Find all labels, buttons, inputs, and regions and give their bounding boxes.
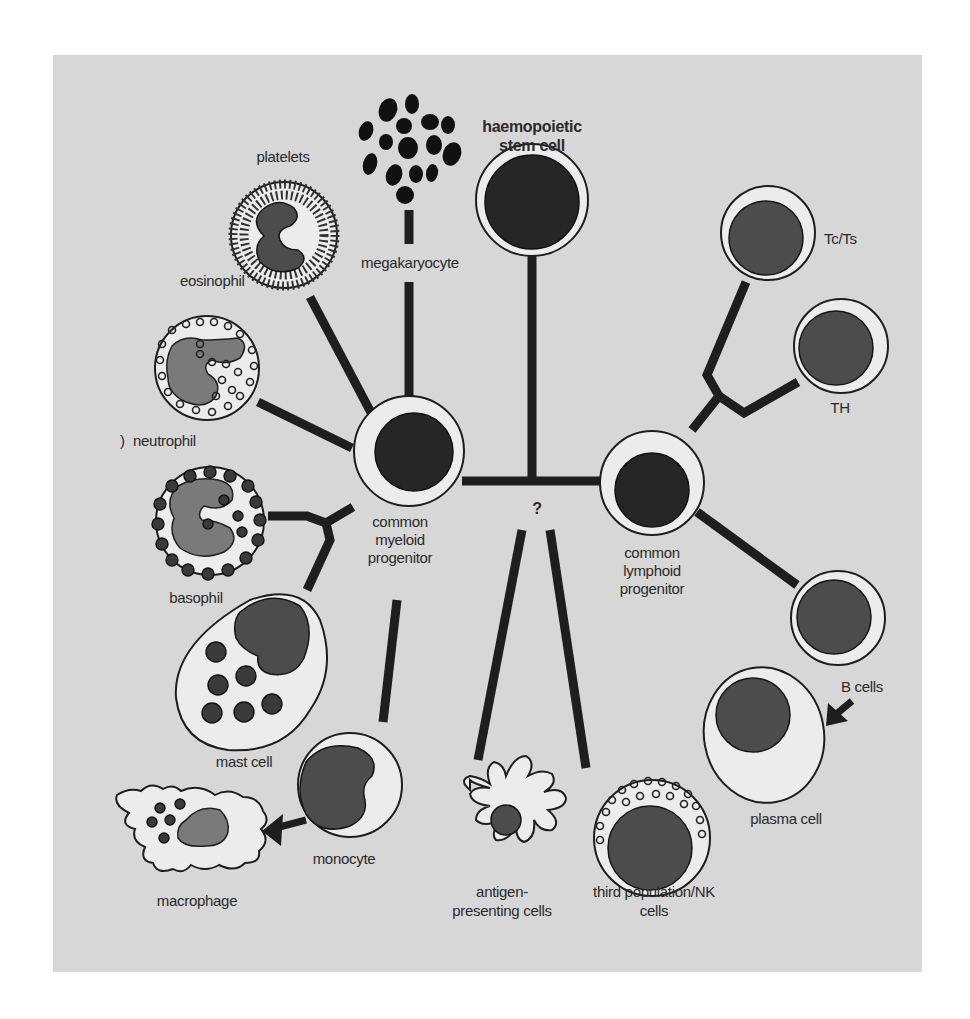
neutrophil-icon — [155, 316, 259, 420]
nk-cell-icon — [594, 778, 710, 897]
tc-ts-cell-icon — [721, 186, 815, 280]
eosinophil-icon — [231, 182, 337, 288]
stray-mark: ) — [120, 432, 125, 449]
macrophage-label: macrophage — [157, 892, 237, 909]
monocyte-label: monocyte — [313, 850, 376, 867]
apc-label: antigen- — [476, 883, 528, 900]
plasma-cell-label: plasma cell — [750, 810, 822, 827]
haematopoiesis-diagram: haemopoietic stem cell common myeloid pr… — [0, 0, 970, 1019]
cmp-label-line2: myeloid — [375, 531, 425, 548]
basophil-icon — [152, 466, 266, 580]
b-cell-icon — [791, 571, 885, 665]
apc-label-line2: presenting cells — [452, 902, 551, 919]
unknown-branch-label: ? — [532, 500, 541, 517]
nk-cell-label: third population/NK — [593, 883, 715, 900]
eosinophil-label: eosinophil — [180, 272, 245, 289]
tc-ts-label: Tc/Ts — [824, 230, 857, 247]
stem-cell-node — [476, 144, 588, 256]
clp-label-line2: lymphoid — [623, 562, 681, 579]
mast-cell-label: mast cell — [216, 753, 272, 770]
platelets-label: platelets — [256, 148, 309, 165]
monocyte-icon — [298, 733, 402, 837]
neutrophil-label: neutrophil — [133, 432, 196, 449]
clp-label: common — [624, 544, 680, 561]
th-label: TH — [830, 399, 849, 416]
megakaryocyte-label: megakaryocyte — [361, 254, 459, 271]
nk-cell-label-line2: cells — [640, 902, 669, 919]
stem-cell-label-line2: stem cell — [499, 137, 565, 154]
stem-cell-label: haemopoietic — [482, 118, 582, 135]
cmp-label: common — [372, 513, 428, 530]
cmp-node — [354, 396, 464, 506]
basophil-label: basophil — [169, 589, 222, 606]
th-cell-icon — [794, 299, 888, 393]
b-cells-label: B cells — [841, 678, 883, 695]
clp-label-line3: progenitor — [620, 580, 685, 597]
clp-node — [600, 431, 704, 535]
cmp-label-line3: progenitor — [368, 549, 433, 566]
